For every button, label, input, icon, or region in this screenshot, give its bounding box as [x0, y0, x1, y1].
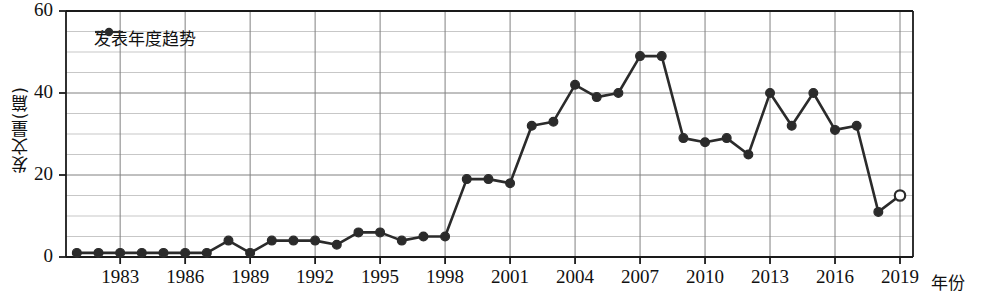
x-tick-label: 1983: [92, 266, 148, 288]
chart-legend: 发表年度趋势: [94, 25, 196, 50]
data-point: [332, 240, 341, 249]
data-point: [202, 249, 211, 258]
data-point: [116, 249, 125, 258]
data-point: [679, 134, 688, 143]
data-point: [787, 121, 796, 130]
x-tick-label: 1989: [222, 266, 278, 288]
data-point: [289, 236, 298, 245]
data-point: [462, 175, 471, 184]
x-tick-label: 1986: [157, 266, 213, 288]
data-point: [874, 208, 883, 217]
data-point-open: [895, 190, 905, 200]
data-point: [614, 89, 623, 98]
data-point: [267, 236, 276, 245]
data-point: [224, 236, 233, 245]
data-point: [72, 249, 81, 258]
data-point: [571, 80, 580, 89]
data-point: [354, 228, 363, 237]
data-point: [441, 232, 450, 241]
data-point: [246, 249, 255, 258]
data-point: [592, 93, 601, 102]
y-tick-label: 40: [19, 81, 53, 103]
data-point: [657, 52, 666, 61]
data-point: [831, 125, 840, 134]
data-point: [419, 232, 428, 241]
data-point: [311, 236, 320, 245]
data-point: [137, 249, 146, 258]
data-point: [527, 121, 536, 130]
data-point: [722, 134, 731, 143]
data-point: [636, 52, 645, 61]
data-point: [376, 228, 385, 237]
data-point: [852, 121, 861, 130]
x-tick-label: 2019: [872, 266, 928, 288]
data-point: [744, 150, 753, 159]
data-point: [549, 117, 558, 126]
x-tick-label: 2013: [742, 266, 798, 288]
data-point: [397, 236, 406, 245]
x-tick-label: 2001: [482, 266, 538, 288]
x-tick-label: 1998: [417, 266, 473, 288]
x-axis-title: 年份: [931, 269, 965, 294]
x-tick-label: 2016: [807, 266, 863, 288]
y-tick-label: 60: [19, 0, 53, 21]
data-point: [766, 89, 775, 98]
y-tick-label: 20: [19, 163, 53, 185]
legend-marker-icon: [94, 25, 124, 39]
x-tick-label: 1992: [287, 266, 343, 288]
data-point: [484, 175, 493, 184]
x-tick-label: 1995: [352, 266, 408, 288]
x-tick-label: 2004: [547, 266, 603, 288]
data-point: [506, 179, 515, 188]
x-tick-label: 2010: [677, 266, 733, 288]
data-point: [181, 249, 190, 258]
data-point: [94, 249, 103, 258]
data-point: [701, 138, 710, 147]
data-point: [159, 249, 168, 258]
x-tick-label: 2007: [612, 266, 668, 288]
data-point: [809, 89, 818, 98]
y-tick-label: 0: [19, 245, 53, 267]
